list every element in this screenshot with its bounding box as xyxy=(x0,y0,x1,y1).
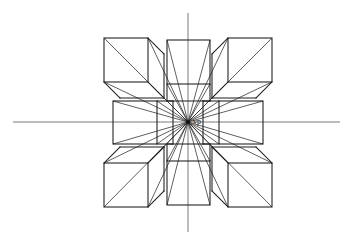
cube-top-left-depth-edge xyxy=(104,82,120,98)
cube-bottom-left-depth-edge xyxy=(104,147,120,163)
cube-top-left-depth-edge xyxy=(148,38,164,54)
axis-group xyxy=(13,13,340,232)
perspective-drawing-canvas: vp xyxy=(0,0,351,247)
cube-top-left-depth-edge xyxy=(148,82,164,98)
cube-bottom-right-ray xyxy=(188,122,272,163)
cube-top-right-depth-edge xyxy=(212,82,228,98)
cube-top-right-depth-edge xyxy=(212,38,228,54)
cube-bottom-left-depth-edge xyxy=(148,191,164,207)
cube-middle-left xyxy=(113,101,173,144)
perspective-figure: vp xyxy=(0,0,351,247)
cube-top-right-depth-edge xyxy=(256,82,272,98)
cube-bottom-left-ray xyxy=(148,122,188,207)
cube-top-left-ray xyxy=(148,38,188,122)
cube-bottom-left-depth-edge xyxy=(148,147,164,163)
cube-bottom-right-depth-edge xyxy=(256,147,272,163)
cube-bottom-center-ray xyxy=(188,122,210,205)
cube-bottom-center-ray xyxy=(167,122,188,161)
cube-bottom-center-front-face xyxy=(167,161,210,205)
vanishing-point-label: vp xyxy=(193,117,201,126)
cube-middle-right xyxy=(203,101,263,144)
cube-bottom-right-ray xyxy=(188,122,228,207)
vanishing-point-dot xyxy=(186,120,190,124)
cube-bottom-left-ray xyxy=(104,122,188,163)
cube-top-center-ray xyxy=(167,84,188,122)
cube-top-right-ray xyxy=(188,38,228,122)
cube-top-center-front-face xyxy=(167,40,210,84)
cube-bottom-right-ray xyxy=(188,122,272,207)
cube-bottom-right-depth-edge xyxy=(212,147,228,163)
cube-bottom-right-depth-edge xyxy=(212,191,228,207)
cube-bottom-left-ray xyxy=(104,122,188,207)
